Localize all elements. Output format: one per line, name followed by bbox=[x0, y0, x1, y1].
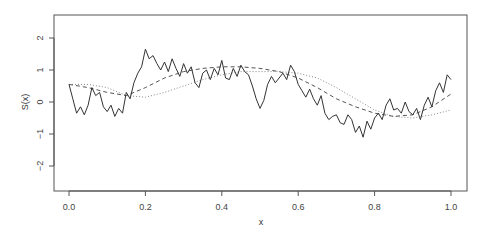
series-layer bbox=[69, 49, 451, 137]
series-realization bbox=[69, 49, 451, 137]
x-axis: 0.00.20.40.60.81.0 bbox=[63, 191, 458, 212]
x-tick-label: 0.2 bbox=[139, 202, 152, 212]
y-tick-label: −2 bbox=[35, 161, 45, 171]
x-tick-label: 0.4 bbox=[216, 202, 229, 212]
y-tick-label: 0 bbox=[35, 99, 45, 104]
x-axis-title: x bbox=[259, 217, 264, 227]
y-axis: −2−1012 bbox=[35, 35, 54, 171]
x-tick-label: 0.8 bbox=[368, 202, 381, 212]
x-tick-label: 1.0 bbox=[445, 202, 458, 212]
x-tick-label: 0.6 bbox=[292, 202, 305, 212]
y-tick-label: 2 bbox=[35, 35, 45, 40]
x-tick-label: 0.0 bbox=[63, 202, 76, 212]
y-tick-label: 1 bbox=[35, 67, 45, 72]
y-tick-label: −1 bbox=[35, 129, 45, 139]
chart: 0.00.20.40.60.81.0 −2−1012 x S(x) bbox=[0, 0, 488, 236]
y-axis-title: S(x) bbox=[20, 94, 30, 111]
